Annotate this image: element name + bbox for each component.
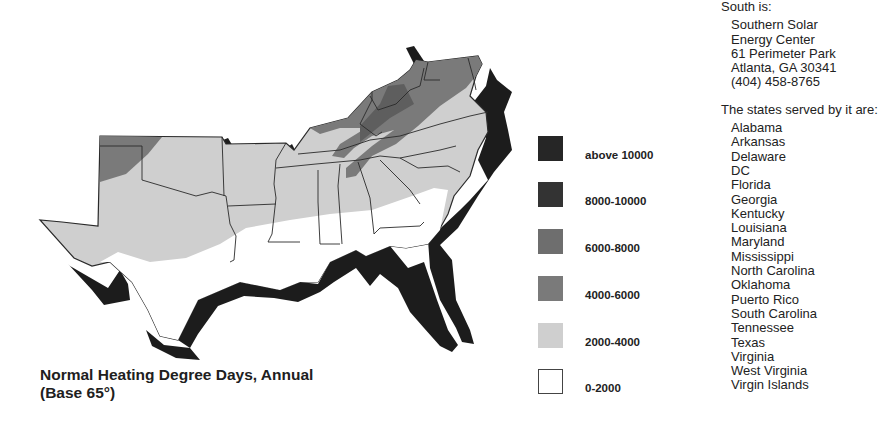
map-title: Normal Heating Degree Days, Annual (Base… (40, 366, 313, 402)
info-panel: South is: Southern Solar Energy Center 6… (721, 0, 878, 393)
legend-label: above 10000 (585, 149, 653, 161)
state-item: Florida (731, 178, 878, 192)
state-item: DC (731, 164, 878, 178)
legend-swatch (538, 323, 563, 348)
state-item: Texas (731, 336, 878, 350)
state-item: Arkansas (731, 135, 878, 149)
state-item: Oklahoma (731, 278, 878, 292)
map-title-line-2: (Base 65°) (40, 384, 313, 402)
state-item: Puerto Rico (731, 293, 878, 307)
legend-label: 4000-6000 (585, 289, 640, 301)
legend-item-2000-4000: 2000-4000 (538, 323, 688, 353)
legend-label: 0-2000 (585, 382, 621, 394)
heating-degree-days-map (0, 0, 540, 424)
legend-label: 6000-8000 (585, 242, 640, 254)
state-item: Delaware (731, 150, 878, 164)
address-line: 61 Perimeter Park (731, 47, 878, 61)
state-item: Kentucky (731, 207, 878, 221)
state-item: North Carolina (731, 264, 878, 278)
legend-item-8000-10000: 8000-10000 (538, 182, 688, 212)
address-line: (404) 458-8765 (731, 75, 878, 89)
legend-label: 8000-10000 (585, 195, 646, 207)
legend-swatch (538, 182, 563, 207)
state-item: Alabama (731, 121, 878, 135)
address-line: Energy Center (731, 33, 878, 47)
legend-swatch (538, 276, 563, 301)
center-address: Southern Solar Energy Center 61 Perimete… (721, 18, 878, 89)
legend-item-above-10000: above 10000 (538, 136, 688, 166)
state-item: Georgia (731, 193, 878, 207)
map-title-line-1: Normal Heating Degree Days, Annual (40, 366, 313, 384)
state-item: Tennessee (731, 321, 878, 335)
legend-item-0-2000: 0-2000 (538, 369, 688, 399)
state-item: South Carolina (731, 307, 878, 321)
legend-item-6000-8000: 6000-8000 (538, 229, 688, 259)
legend: above 10000 8000-10000 6000-8000 4000-60… (538, 136, 688, 416)
state-item: Maryland (731, 235, 878, 249)
legend-item-4000-6000: 4000-6000 (538, 276, 688, 306)
info-heading: South is: (721, 0, 878, 14)
legend-label: 2000-4000 (585, 336, 640, 348)
state-item: Mississippi (731, 250, 878, 264)
states-heading: The states served by it are: (721, 103, 878, 117)
state-item: West Virginia (731, 364, 878, 378)
state-item: Virginia (731, 350, 878, 364)
legend-swatch (538, 136, 563, 161)
states-list: Alabama Arkansas Delaware DC Florida Geo… (721, 121, 878, 393)
legend-swatch (538, 369, 563, 394)
address-line: Southern Solar (731, 18, 878, 32)
legend-swatch (538, 229, 563, 254)
address-line: Atlanta, GA 30341 (731, 61, 878, 75)
state-item: Louisiana (731, 221, 878, 235)
state-item: Virgin Islands (731, 378, 878, 392)
